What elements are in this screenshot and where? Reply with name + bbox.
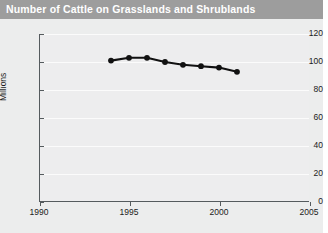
y-axis-label: 80 bbox=[290, 85, 323, 94]
data-point-marker bbox=[108, 58, 114, 64]
y-axis-title: Millions bbox=[0, 73, 8, 101]
x-axis-label: 2005 bbox=[289, 207, 328, 217]
data-point-marker bbox=[126, 55, 132, 61]
data-point-marker bbox=[216, 65, 222, 71]
y-axis-label: 60 bbox=[290, 113, 323, 122]
data-point-marker bbox=[162, 59, 168, 65]
data-point-marker bbox=[198, 63, 204, 69]
y-axis-label: 100 bbox=[290, 57, 323, 66]
x-axis-label: 1990 bbox=[19, 207, 59, 217]
y-axis-label: 120 bbox=[290, 29, 323, 38]
y-axis-label: 20 bbox=[290, 169, 323, 178]
y-axis-label: 40 bbox=[290, 141, 323, 150]
data-point-marker bbox=[234, 69, 240, 75]
y-axis-label: 0 bbox=[290, 197, 323, 206]
x-axis-label: 2000 bbox=[199, 207, 239, 217]
data-point-marker bbox=[144, 55, 150, 61]
data-point-marker bbox=[180, 62, 186, 68]
x-axis-label: 1995 bbox=[109, 207, 149, 217]
